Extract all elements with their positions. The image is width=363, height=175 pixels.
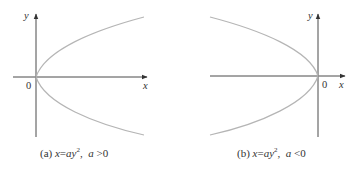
y-axis-label-a: y — [23, 10, 29, 21]
caption-b: (b) x=ay2, a <0 — [237, 147, 306, 159]
eq-exp-a: 2 — [76, 146, 80, 154]
cond-val-a: 0 — [103, 147, 109, 159]
caption-label-a: (a) — [40, 147, 52, 159]
x-axis-label-a: x — [142, 80, 148, 91]
figure-b: y 0 x — [210, 10, 345, 137]
eq-exp-b: 2 — [274, 146, 278, 154]
figure-a: y 0 x — [13, 10, 148, 137]
cond-var-a: a — [88, 147, 94, 159]
cond-var-b: a — [286, 147, 292, 159]
origin-label-b: 0 — [322, 79, 327, 90]
origin-label-a: 0 — [26, 80, 31, 91]
x-axis-label-b: x — [338, 79, 344, 90]
caption-label-b: (b) — [237, 147, 250, 159]
parabola-curve-a — [36, 17, 144, 135]
caption-a: (a) x=ay2, a >0 — [40, 147, 108, 159]
cond-val-b: 0 — [300, 147, 306, 159]
y-axis-label-b: y — [307, 10, 313, 21]
